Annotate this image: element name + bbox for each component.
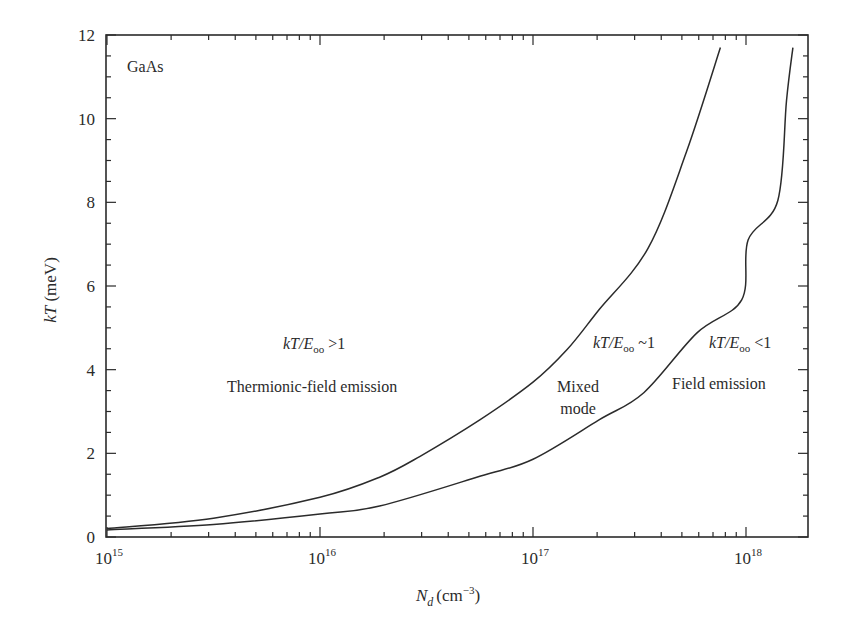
annotation-mixed-label-2: mode [560,400,596,417]
series-group [107,48,793,530]
axis-ticks [106,35,808,537]
y-tick-labels: 024681012 [78,26,96,547]
x-tick-label: 1016 [308,546,337,568]
annotation-tfe-ratio: kT/Eoo >1 [283,335,345,355]
y-tick-label: 0 [87,528,96,547]
x-tick-labels: 1015101610171018 [95,546,763,568]
y-tick-label: 4 [87,361,96,380]
series-line-lower [107,48,793,530]
y-tick-label: 2 [87,444,96,463]
plot-frame [106,35,808,537]
x-axis-title: Nd(cm−3) [415,584,480,609]
x-tick-label: 1017 [521,546,550,568]
annotation-fe-ratio: kT/Eoo <1 [709,334,771,354]
annotation-tfe-label: Thermionic-field emission [227,378,397,395]
annotation-fe-label: Field emission [672,375,766,392]
y-tick-label: 10 [78,110,95,129]
y-tick-label: 8 [87,193,96,212]
x-tick-label: 1018 [734,546,763,568]
chart: 1015101610171018 024681012 Nd(cm−3) kT (… [0,0,846,634]
annotation-mixed-ratio: kT/Eoo ~1 [593,334,655,354]
y-axis-title: kT (meV) [41,257,60,323]
y-tick-label: 12 [78,26,95,45]
annotation-mixed-label-1: Mixed [557,378,599,395]
x-tick-label: 1015 [95,546,124,568]
y-tick-label: 6 [87,277,96,296]
annotation-material: GaAs [127,58,163,75]
series-line-upper [107,48,720,529]
